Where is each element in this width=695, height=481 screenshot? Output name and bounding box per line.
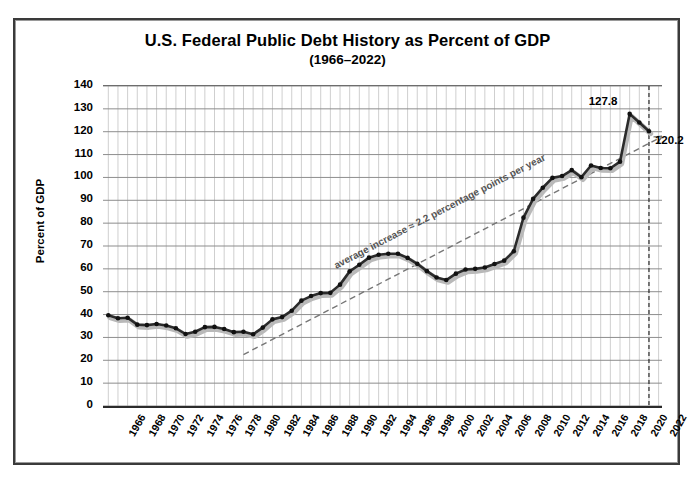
y-tick-10: 10 bbox=[51, 375, 93, 387]
chart-figure: U.S. Federal Public Debt History as Perc… bbox=[0, 0, 695, 481]
chart-subtitle: (1966–2022) bbox=[0, 52, 695, 67]
y-tick-120: 120 bbox=[51, 124, 93, 136]
y-tick-0: 0 bbox=[51, 398, 93, 410]
y-tick-130: 130 bbox=[51, 101, 93, 113]
chart-title: U.S. Federal Public Debt History as Perc… bbox=[0, 31, 695, 50]
y-tick-100: 100 bbox=[51, 169, 93, 181]
y-tick-20: 20 bbox=[51, 352, 93, 364]
y-tick-90: 90 bbox=[51, 192, 93, 204]
y-tick-80: 80 bbox=[51, 215, 93, 227]
y-tick-140: 140 bbox=[51, 78, 93, 90]
y-tick-30: 30 bbox=[51, 329, 93, 341]
y-tick-60: 60 bbox=[51, 261, 93, 273]
y-tick-50: 50 bbox=[51, 284, 93, 296]
peak-value-label: 127.8 bbox=[589, 95, 618, 107]
y-axis-title: Percent of GDP bbox=[34, 151, 46, 291]
y-tick-70: 70 bbox=[51, 238, 93, 250]
y-tick-40: 40 bbox=[51, 307, 93, 319]
final-value-label: 120.2 bbox=[655, 134, 684, 146]
y-tick-110: 110 bbox=[51, 147, 93, 159]
